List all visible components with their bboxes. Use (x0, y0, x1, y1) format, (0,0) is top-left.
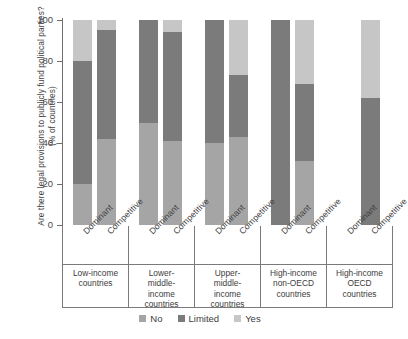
stacked-bar (295, 20, 314, 225)
group-separator (260, 226, 261, 264)
legend-swatch-icon (139, 315, 146, 322)
group-label-line: Low-income (63, 268, 128, 278)
group-label-line: OECD (327, 278, 392, 288)
stacked-bar (97, 20, 116, 225)
bar-segment-yes (295, 20, 314, 84)
legend-label: Yes (245, 313, 261, 324)
group-label-line: countries (63, 278, 128, 288)
stacked-bar (139, 20, 158, 225)
x-axis-labels: DominantCompetitiveDominantCompetitiveDo… (62, 226, 392, 266)
y-axis-tick-label: 60 (23, 96, 53, 107)
group-separator (128, 226, 129, 264)
legend-label: Limited (189, 313, 220, 324)
group-label-line: income (195, 289, 260, 299)
bar-segment-no (139, 123, 158, 226)
group-separator (194, 226, 195, 264)
bar-segment-yes (163, 20, 182, 32)
y-axis-tick-label: 40 (23, 137, 53, 148)
stacked-bar (205, 20, 224, 225)
stacked-bar (229, 20, 248, 225)
legend-swatch-icon (178, 315, 185, 322)
group-label-line: income (129, 289, 194, 299)
group-label-line: countries (129, 299, 194, 307)
group-label-line: countries (261, 289, 326, 299)
y-axis-title: Are there legal provisions to publicly f… (36, 4, 58, 228)
group-label-line: middle- (129, 278, 194, 288)
legend-item[interactable]: Limited (178, 313, 220, 324)
bar-segment-limited (295, 84, 314, 162)
bar-segment-yes (361, 20, 380, 98)
group-label: High-incomeOECDcountries (327, 265, 392, 307)
bar-segment-yes (73, 20, 92, 61)
bar-segment-limited (139, 20, 158, 123)
y-axis-title-container: Are there legal provisions to publicly f… (2, 0, 38, 230)
group-label: Low-incomecountries (63, 265, 129, 307)
y-axis-tick-label: 0 (23, 219, 53, 230)
group-label-line: High-income (327, 268, 392, 278)
bar-segment-no (73, 184, 92, 225)
group-label-line: Upper- (195, 268, 260, 278)
bar-segment-limited (97, 30, 116, 139)
group-label-line: middle- (195, 278, 260, 288)
legend-item[interactable]: No (139, 313, 162, 324)
group-label-line: countries (327, 289, 392, 299)
bar-segment-limited (271, 20, 290, 225)
bar-segment-limited (229, 75, 248, 137)
y-axis-tick-label: 100 (23, 14, 53, 25)
bar-segment-limited (163, 32, 182, 141)
plot-area (62, 20, 392, 225)
group-label: Upper-middle-incomecountries (195, 265, 261, 307)
group-separator (62, 226, 63, 264)
bar-segment-no (205, 143, 224, 225)
y-axis-tick-label: 20 (23, 178, 53, 189)
stacked-bar (163, 20, 182, 225)
bar-segment-yes (97, 20, 116, 30)
y-axis-tick-label: 80 (23, 55, 53, 66)
stacked-bar (73, 20, 92, 225)
bar-segment-yes (229, 20, 248, 75)
legend-item[interactable]: Yes (234, 313, 261, 324)
group-separator (392, 226, 393, 264)
group-label-line: countries (195, 299, 260, 307)
stacked-bar (271, 20, 290, 225)
bar-segment-limited (205, 20, 224, 143)
group-label-line: Lower- (129, 268, 194, 278)
bar-segment-limited (73, 61, 92, 184)
stacked-bar (361, 20, 380, 225)
group-label-line: High-income (261, 268, 326, 278)
legend-swatch-icon (234, 315, 241, 322)
group-separator (326, 226, 327, 264)
chart-legend: NoLimitedYes (0, 313, 400, 324)
group-label: Lower-middle-incomecountries (129, 265, 195, 307)
group-label: High-incomenon-OECDcountries (261, 265, 327, 307)
legend-label: No (150, 313, 162, 324)
group-label-line: non-OECD (261, 278, 326, 288)
group-label-box: Low-incomecountriesLower-middle-incomeco… (62, 264, 393, 308)
